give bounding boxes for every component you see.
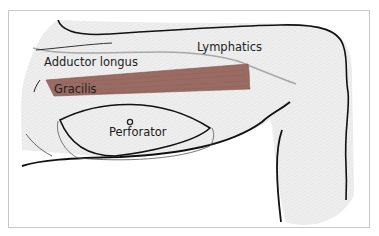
label-gracilis: Gracilis xyxy=(54,84,97,96)
thigh-diagram xyxy=(0,0,379,236)
label-adductor-longus: Adductor longus xyxy=(44,57,138,69)
label-lymphatics: Lymphatics xyxy=(197,42,262,54)
label-perforator: Perforator xyxy=(109,127,166,139)
